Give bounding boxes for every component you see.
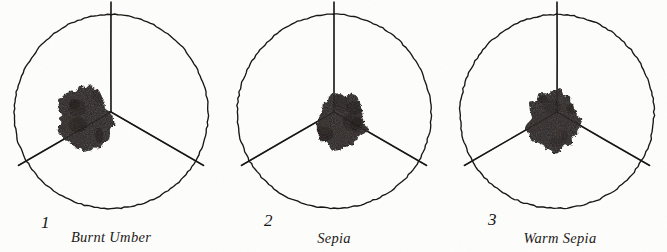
pigment-sample-plate: 1 Burnt Umber 2 Sepia 3 Warm Sepia xyxy=(0,0,667,252)
sample-number-3: 3 xyxy=(488,211,497,228)
swatch-diagram-2 xyxy=(222,0,444,252)
sample-number-2: 2 xyxy=(264,212,273,229)
swatch-panel-1: 1 Burnt Umber xyxy=(0,0,222,252)
pigment-blob-texture xyxy=(50,79,120,159)
sample-caption-2: Sepia xyxy=(317,231,351,246)
swatch-panel-3: 3 Warm Sepia xyxy=(445,0,667,252)
sample-number-1: 1 xyxy=(41,214,50,231)
pigment-blob-texture xyxy=(519,83,587,159)
swatch-diagram-3 xyxy=(445,0,667,252)
sample-caption-3: Warm Sepia xyxy=(524,231,597,246)
sample-caption-1: Burnt Umber xyxy=(71,230,151,245)
swatch-panel-2: 2 Sepia xyxy=(222,0,444,252)
pigment-blob-texture xyxy=(308,87,374,157)
swatch-diagram-1 xyxy=(0,0,222,252)
sector-divider-overlay-lower-right xyxy=(111,112,204,166)
